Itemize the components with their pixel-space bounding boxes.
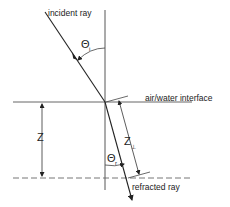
- incident-angle-subscript: i: [89, 46, 90, 52]
- incident-ray-label: incident ray: [48, 8, 92, 18]
- interface-label: air/water interface: [145, 93, 213, 103]
- path-length-label: Z: [124, 135, 131, 147]
- refraction-diagram: incident ray air/water interface refract…: [0, 0, 230, 207]
- depth-label: Z: [37, 131, 44, 143]
- refracted-angle-subscript: r: [115, 160, 117, 166]
- refracted-ray: [105, 102, 132, 200]
- path-length-subscript: ⊥: [131, 144, 136, 150]
- perp-tick-top: [106, 96, 128, 102]
- refracted-ray-label: refracted ray: [132, 182, 180, 192]
